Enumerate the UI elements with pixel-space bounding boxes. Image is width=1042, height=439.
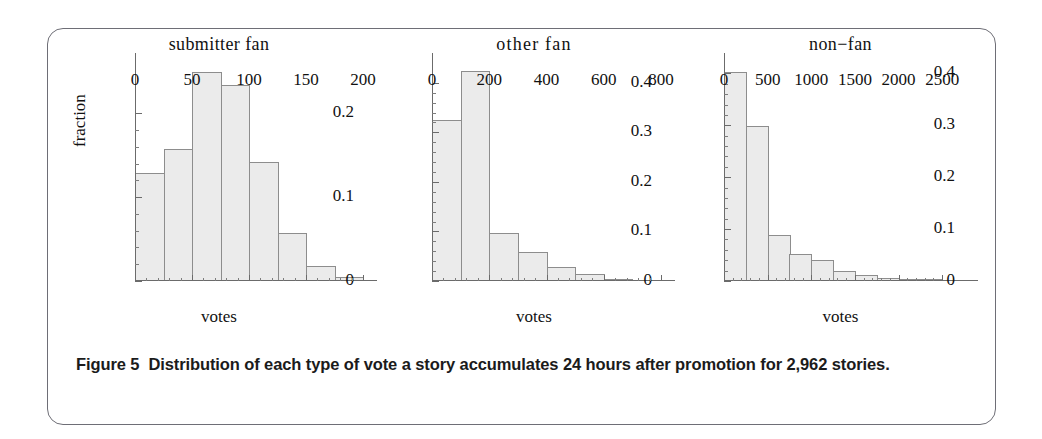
y-tick-label: 0.2 xyxy=(333,102,354,122)
x-tick-minor xyxy=(925,278,926,282)
y-tick-minor xyxy=(432,192,436,193)
caption-label: Figure 5 xyxy=(76,355,139,373)
x-tick-label: 100 xyxy=(236,70,262,90)
x-tick xyxy=(811,275,812,281)
x-tick-minor xyxy=(592,278,593,282)
y-tick-minor xyxy=(135,247,139,248)
x-tick-minor xyxy=(569,278,570,282)
x-tick-minor xyxy=(146,278,147,282)
histogram-bar xyxy=(249,162,279,281)
x-tick xyxy=(135,275,136,281)
histogram-bar xyxy=(489,233,519,281)
x-axis-label-0: votes xyxy=(54,307,384,327)
y-tick-minor xyxy=(724,250,728,251)
figure-screenshot: submitter fan fraction 00.10.20501001502… xyxy=(0,0,1042,439)
x-tick-minor xyxy=(650,278,651,282)
histogram-bar xyxy=(746,126,769,281)
y-tick-minor xyxy=(432,152,436,153)
x-tick-minor xyxy=(750,278,751,282)
y-tick-minor xyxy=(724,156,728,157)
y-tick-minor xyxy=(135,180,139,181)
plot-area-1: 00.10.20.30.40200400600800 xyxy=(432,63,661,281)
y-tick-minor xyxy=(135,264,139,265)
x-tick-label: 600 xyxy=(591,70,617,90)
y-tick-minor xyxy=(724,136,728,137)
x-tick-minor xyxy=(524,278,525,282)
x-tick-minor xyxy=(501,278,502,282)
y-tick xyxy=(724,177,731,178)
y-tick-minor xyxy=(432,122,436,123)
x-tick-minor xyxy=(776,278,777,282)
y-tick-minor xyxy=(432,241,436,242)
x-tick-minor xyxy=(638,278,639,282)
x-tick-minor xyxy=(759,278,760,282)
x-tick-label: 150 xyxy=(293,70,319,90)
y-tick-minor xyxy=(432,93,436,94)
x-tick-minor xyxy=(272,278,273,282)
x-tick xyxy=(192,275,193,281)
x-tick xyxy=(306,275,307,281)
y-tick-minor xyxy=(432,202,436,203)
y-axis-label: fraction xyxy=(70,94,90,147)
x-tick-label: 2000 xyxy=(882,70,916,90)
histogram-bar xyxy=(135,173,165,281)
y-tick-minor xyxy=(135,214,139,215)
x-tick xyxy=(899,275,900,281)
y-tick-minor xyxy=(432,172,436,173)
plot-area-0: 00.10.2050100150200 xyxy=(135,63,363,281)
histogram-bar xyxy=(768,235,791,281)
y-tick-minor xyxy=(724,146,728,147)
y-tick-minor xyxy=(135,164,139,165)
x-axis-label-1: votes xyxy=(384,307,684,327)
x-tick-minor xyxy=(907,278,908,282)
x-tick-minor xyxy=(864,278,865,282)
x-tick-minor xyxy=(455,278,456,282)
y-tick-minor xyxy=(724,260,728,261)
y-tick-label: 0 xyxy=(644,270,653,290)
histogram-bar xyxy=(547,267,577,281)
x-tick xyxy=(855,275,856,281)
x-tick-minor xyxy=(872,278,873,282)
y-tick xyxy=(432,132,439,133)
x-tick-minor xyxy=(352,278,353,282)
y-tick-label: 0 xyxy=(346,270,355,290)
x-tick-label: 1000 xyxy=(794,70,828,90)
x-tick-minor xyxy=(615,278,616,282)
y-tick-label: 0.1 xyxy=(934,218,955,238)
x-tick-minor xyxy=(627,278,628,282)
x-tick-minor xyxy=(169,278,170,282)
x-tick-minor xyxy=(329,278,330,282)
x-tick-minor xyxy=(283,278,284,282)
x-tick-minor xyxy=(260,278,261,282)
histogram-bar xyxy=(518,252,548,281)
y-tick xyxy=(135,197,142,198)
y-tick-minor xyxy=(724,115,728,116)
y-tick xyxy=(432,231,439,232)
y-tick-minor xyxy=(724,188,728,189)
x-tick-minor xyxy=(785,278,786,282)
x-tick-minor xyxy=(803,278,804,282)
y-tick-label: 0 xyxy=(947,270,956,290)
panel-title-0: submitter fan xyxy=(54,34,384,55)
x-axis-label-2: votes xyxy=(684,307,997,327)
histogram-bar xyxy=(432,120,462,281)
x-tick-label: 0 xyxy=(428,70,437,90)
panel-row: submitter fan fraction 00.10.20501001502… xyxy=(48,29,997,339)
x-tick-minor xyxy=(215,278,216,282)
histogram-bar xyxy=(811,260,834,281)
x-tick xyxy=(249,275,250,281)
y-tick xyxy=(432,182,439,183)
y-tick-minor xyxy=(432,261,436,262)
y-tick-minor xyxy=(724,219,728,220)
x-tick-minor xyxy=(466,278,467,282)
y-tick-label: 0.1 xyxy=(333,186,354,206)
x-tick-minor xyxy=(881,278,882,282)
y-tick-minor xyxy=(432,113,436,114)
x-tick-minor xyxy=(829,278,830,282)
bar-series-2 xyxy=(724,63,964,281)
x-tick-label: 400 xyxy=(534,70,560,90)
histogram-bar xyxy=(306,266,336,281)
x-tick-label: 50 xyxy=(184,70,201,90)
figure-frame: submitter fan fraction 00.10.20501001502… xyxy=(47,28,996,425)
x-tick-minor xyxy=(916,278,917,282)
